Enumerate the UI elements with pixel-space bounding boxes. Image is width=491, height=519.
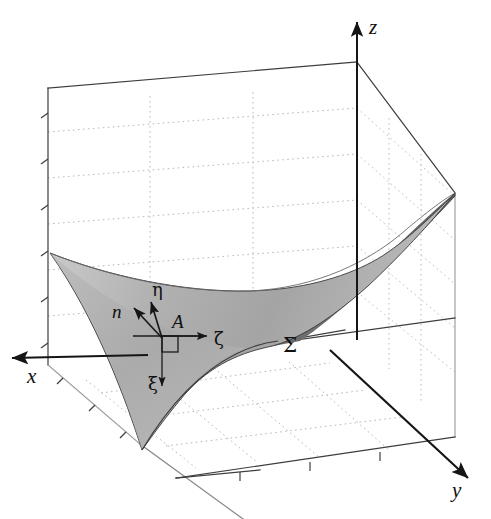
zeta-label: ζ (214, 328, 224, 349)
y-axis (330, 350, 468, 478)
eta-label: η (152, 279, 163, 300)
x-axis-label: x (26, 364, 37, 388)
y-axis-label: y (450, 478, 462, 502)
point-A-label: A (170, 311, 184, 332)
z-axis-label: z (368, 15, 377, 39)
xi-label: ξ (148, 373, 158, 394)
surface-label-sigma: Σ (283, 333, 297, 357)
diagram-canvas: z x y Σ η n ζ (0, 0, 491, 519)
figure-root: z x y Σ η n ζ (0, 0, 491, 519)
n-label: n (112, 301, 122, 322)
